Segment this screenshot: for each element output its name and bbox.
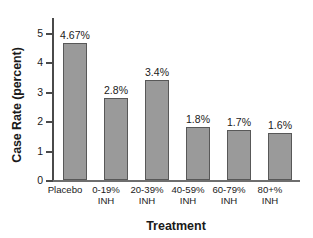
y-tick-2 — [46, 121, 53, 123]
bar-group: 1.7% — [219, 18, 259, 180]
y-tick-label-3: 3 — [21, 87, 43, 97]
bar-group: 1.6% — [260, 18, 300, 180]
bar[interactable] — [104, 98, 128, 180]
y-tick-label-1: 1 — [21, 146, 43, 156]
y-tick-label-5: 5 — [21, 28, 43, 38]
x-axis-title: Treatment — [52, 219, 300, 233]
bar-value-label: 4.67% — [49, 30, 101, 41]
y-tick-label-4: 4 — [21, 57, 43, 67]
x-axis-line — [52, 180, 300, 182]
y-tick-3 — [46, 92, 53, 94]
bar[interactable] — [227, 130, 251, 180]
bar-chart-figure: Case Rate (percent) 0 1 2 3 4 5 4.67% 2.… — [0, 0, 313, 238]
y-tick-label-0: 0 — [21, 175, 43, 185]
bar-group: 4.67% — [55, 18, 95, 180]
bar-group: 2.8% — [96, 18, 136, 180]
bar[interactable] — [186, 127, 210, 180]
bar-group: 1.8% — [178, 18, 218, 180]
bar[interactable] — [63, 43, 87, 180]
bar-group: 3.4% — [137, 18, 177, 180]
x-category-label: 80+% INH — [242, 185, 298, 206]
y-tick-1 — [46, 151, 53, 153]
bar[interactable] — [145, 80, 169, 180]
y-axis-title: Case Rate (percent) — [10, 20, 24, 190]
bar[interactable] — [268, 133, 292, 180]
y-tick-4 — [46, 62, 53, 64]
bar-value-label: 2.8% — [90, 85, 142, 96]
plot-area: 4.67% 2.8% 3.4% 1.8% 1.7% 1.6% — [53, 18, 300, 180]
bar-value-label: 3.4% — [131, 67, 183, 78]
y-tick-label-2: 2 — [21, 116, 43, 126]
y-tick-0 — [46, 180, 53, 182]
bar-value-label: 1.6% — [254, 120, 306, 131]
